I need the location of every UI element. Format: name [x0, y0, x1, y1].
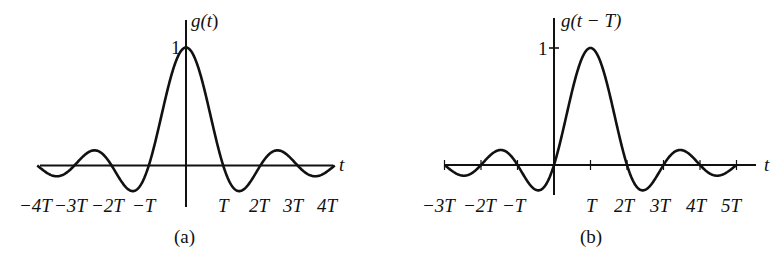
x-tick-label-b: 5T	[721, 196, 741, 215]
x-tick-label-b: 2T	[614, 196, 634, 215]
panel-b	[444, 18, 756, 195]
x-tick-label-a: 2T	[249, 196, 269, 215]
x-tick-label-b: 4T	[686, 196, 706, 215]
figure-canvas	[0, 0, 784, 263]
x-tick-label-b: −2T	[463, 196, 496, 215]
x-tick-label-a: 3T	[283, 196, 303, 215]
caption-b: (b)	[580, 227, 602, 246]
y-tick-one-a: 1	[171, 38, 181, 57]
x-tick-label-a: −3T	[54, 196, 87, 215]
x-axis-label-a: t	[339, 155, 344, 174]
x-tick-label-b: 3T	[650, 196, 670, 215]
y-label-suffix-a: )	[212, 10, 218, 31]
x-tick-label-a: 4T	[317, 196, 337, 215]
x-tick-label-b: −T	[502, 196, 525, 215]
x-tick-label-b: −3T	[422, 196, 455, 215]
y-axis-label-b: g(t − T)	[561, 11, 621, 30]
x-tick-label-a: −2T	[91, 196, 124, 215]
x-tick-label-b: T	[586, 196, 597, 215]
panel-a	[37, 20, 335, 207]
caption-a: (a)	[174, 227, 195, 246]
x-tick-label-a: −T	[132, 196, 155, 215]
y-axis-label-a: g(t)	[191, 11, 218, 30]
x-tick-label-a: T	[218, 196, 229, 215]
y-tick-one-b-label: 1	[538, 39, 548, 58]
x-tick-label-a: −4T	[19, 196, 52, 215]
y-label-prefix-a: g(	[191, 10, 207, 31]
x-axis-label-b: t	[764, 155, 769, 174]
